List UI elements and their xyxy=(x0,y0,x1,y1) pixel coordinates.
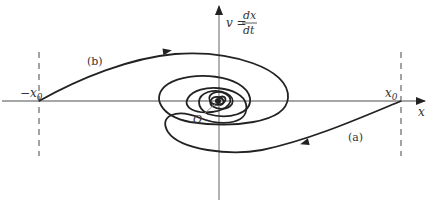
svg-text:dt: dt xyxy=(243,24,255,37)
trajectory-b xyxy=(39,53,288,124)
label-b: (b) xyxy=(87,55,103,68)
x-axis-label: x xyxy=(418,105,425,119)
v-axis-label: v = dx dt xyxy=(226,9,257,37)
phase-plane-diagram: (b) (a) −x0 x0 x O v = dx dt xyxy=(0,0,443,201)
svg-text:dx: dx xyxy=(243,9,257,22)
origin-label: O xyxy=(193,113,202,126)
label-x0: x0 xyxy=(385,86,398,102)
label-a: (a) xyxy=(348,131,363,144)
